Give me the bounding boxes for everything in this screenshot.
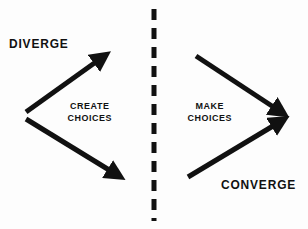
make-choices-line-2: CHOICES: [187, 112, 232, 124]
converge-up-arrow: [188, 123, 278, 177]
diagram-graphics: [0, 0, 308, 229]
create-choices-line-1: CREATE: [67, 100, 112, 112]
make-choices-line-1: MAKE: [187, 100, 232, 112]
create-choices-line-2: CHOICES: [67, 112, 112, 124]
diverge-down-arrow: [26, 119, 114, 173]
create-choices-label: CREATE CHOICES: [67, 100, 112, 124]
diverge-label: DIVERGE: [9, 36, 69, 52]
make-choices-label: MAKE CHOICES: [187, 100, 232, 124]
converge-label: CONVERGE: [221, 177, 296, 193]
diagram-canvas: DIVERGE CONVERGE CREATE CHOICES MAKE CHO…: [0, 0, 308, 229]
